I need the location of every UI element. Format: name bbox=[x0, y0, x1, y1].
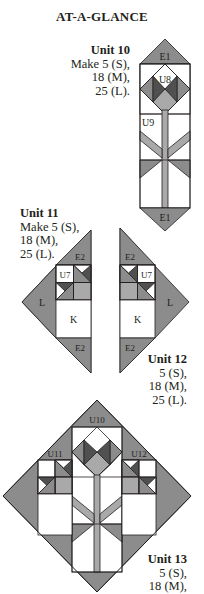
unit-11-diagram: L E2 U7 K E2 bbox=[22, 230, 91, 373]
unit-10-u8-label: U8 bbox=[159, 74, 171, 85]
unit-13-u12-label: U12 bbox=[131, 449, 147, 459]
unit-12-diagram: L E2 U7 K E2 bbox=[120, 228, 189, 373]
unit-10-top-e1-label: E1 bbox=[159, 51, 170, 62]
unit-11-bottom-e2-label: E2 bbox=[75, 343, 85, 353]
unit-12-u7-block: U7 bbox=[120, 265, 155, 300]
unit-10-diagram: E1 U8 U9 bbox=[140, 39, 190, 231]
unit-13-u10-label: U10 bbox=[89, 415, 105, 425]
quilt-diagram: E1 U8 U9 bbox=[0, 0, 204, 594]
unit-11-bottom-e2 bbox=[56, 338, 91, 373]
unit-13-u11-block: U11 bbox=[38, 449, 72, 535]
unit-13-u12-block: U12 bbox=[122, 449, 156, 535]
unit-10-u9-label: U9 bbox=[142, 117, 154, 128]
unit-11-u7-block: U7 bbox=[56, 265, 91, 300]
unit-11-l-label: L bbox=[39, 297, 45, 308]
unit-13-diagram: U10 U11 bbox=[3, 400, 191, 592]
unit-12-bottom-e2-label: E2 bbox=[125, 343, 135, 353]
unit-12-u7-label: U7 bbox=[141, 270, 152, 280]
unit-11-top-e2-label: E2 bbox=[75, 252, 85, 262]
unit-12-k-label: K bbox=[134, 314, 142, 325]
unit-10-u8-block: U8 bbox=[140, 64, 190, 114]
unit-13-u11-label: U11 bbox=[47, 449, 62, 459]
unit-10-bottom-e1-label: E1 bbox=[159, 212, 170, 223]
unit-11-k-label: K bbox=[70, 314, 78, 325]
unit-11-top-e2 bbox=[56, 230, 91, 265]
unit-11-u7-label: U7 bbox=[60, 270, 71, 280]
unit-12-top-e2-label: E2 bbox=[125, 252, 135, 262]
unit-12-l-label: L bbox=[167, 297, 173, 308]
